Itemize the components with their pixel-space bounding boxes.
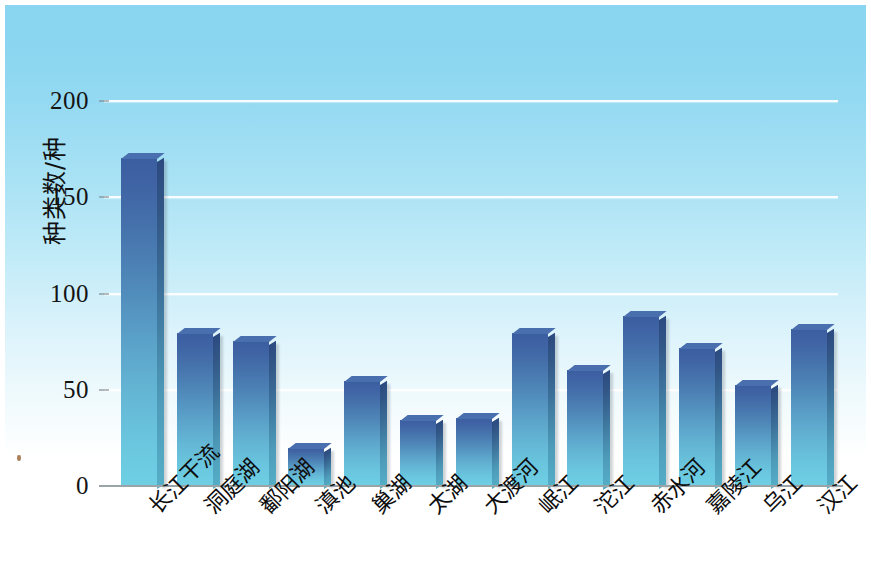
- chart-figure: 050100150200 种类数/种 长江干流洞庭湖鄱阳湖滇池巢湖太湖大渡河岷江…: [0, 0, 871, 574]
- bar-side-face: [659, 315, 666, 489]
- plot-area: [99, 100, 839, 487]
- y-axis-tick-label: 0: [76, 473, 89, 498]
- bar-top-face: [456, 413, 500, 419]
- bar[interactable]: [344, 381, 380, 485]
- bar-side-face: [157, 157, 164, 489]
- y-axis-tick: [99, 293, 109, 295]
- bar-front-face: [456, 418, 492, 485]
- bar-front-face: [567, 370, 603, 486]
- bar-side-face: [269, 340, 276, 489]
- bar-top-face: [735, 380, 779, 386]
- bar[interactable]: [456, 418, 492, 485]
- gridline: [104, 293, 838, 295]
- y-axis-title: 种类数/种: [35, 66, 70, 316]
- bar-top-face: [288, 443, 332, 449]
- gridline: [104, 196, 838, 198]
- bar[interactable]: [121, 158, 157, 485]
- gridline: [104, 100, 838, 102]
- bar-top-face: [177, 328, 221, 334]
- bar-top-face: [567, 365, 611, 371]
- bar-front-face: [791, 329, 827, 485]
- bar[interactable]: [400, 420, 436, 485]
- bar-side-face: [548, 333, 555, 489]
- bar-top-face: [623, 311, 667, 317]
- bar-front-face: [121, 158, 157, 485]
- bar-top-face: [400, 415, 444, 421]
- bar[interactable]: [567, 370, 603, 486]
- bar-front-face: [623, 316, 659, 485]
- bar-side-face: [715, 348, 722, 489]
- bar-top-face: [344, 376, 388, 382]
- bar-top-face: [121, 153, 165, 159]
- bar-front-face: [400, 420, 436, 485]
- y-axis-tick: [99, 389, 109, 391]
- bar-top-face: [791, 324, 835, 330]
- bar-front-face: [344, 381, 380, 485]
- bar[interactable]: [623, 316, 659, 485]
- chart-canvas: 050100150200 种类数/种 长江干流洞庭湖鄱阳湖滇池巢湖太湖大渡河岷江…: [5, 5, 866, 569]
- y-axis-tick: [99, 196, 109, 198]
- bar-top-face: [512, 328, 556, 334]
- y-axis-tick-label: 50: [63, 377, 89, 402]
- bar-side-face: [603, 369, 610, 489]
- bar[interactable]: [791, 329, 827, 485]
- bar-top-face: [233, 336, 277, 342]
- bar-side-face: [827, 329, 834, 489]
- y-axis-tick: [99, 100, 109, 102]
- bar-top-face: [679, 343, 723, 349]
